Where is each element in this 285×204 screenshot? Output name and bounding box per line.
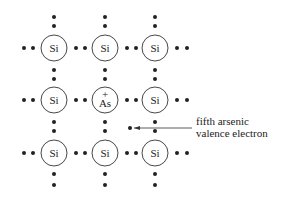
svg-text:Si: Si — [150, 42, 159, 54]
electron-dot — [103, 183, 107, 187]
electron-dot — [31, 98, 35, 102]
electron-dot — [134, 151, 138, 155]
atom-as: As+ — [92, 87, 118, 113]
electron-dot — [74, 151, 78, 155]
electron-dot — [52, 77, 56, 81]
svg-text:Si: Si — [49, 42, 58, 54]
atom-si: Si — [41, 140, 67, 166]
electron-dot — [153, 120, 157, 124]
svg-text:Si: Si — [49, 94, 58, 106]
svg-text:Si: Si — [150, 94, 159, 106]
electron-dot — [185, 151, 189, 155]
atom-si: Si — [142, 87, 168, 113]
electron-dot — [175, 98, 179, 102]
electron-dot — [153, 15, 157, 19]
electron-dot — [74, 98, 78, 102]
svg-text:Si: Si — [100, 147, 109, 159]
fifth-electron-annotation: fifth arsenic valence electron — [128, 115, 268, 139]
electron-dot — [103, 120, 107, 124]
electron-dot — [125, 151, 129, 155]
electron-dot — [52, 24, 56, 28]
silicon-lattice-diagram: SiSiSiSiAs+SiSiSiSi fifth arsenic valenc… — [0, 0, 285, 204]
electron-dot — [52, 15, 56, 19]
svg-text:Si: Si — [150, 147, 159, 159]
electron-dot — [52, 68, 56, 72]
electron-dot — [31, 46, 35, 50]
electron-dot — [153, 24, 157, 28]
electron-dot — [103, 68, 107, 72]
electron-dot — [103, 172, 107, 176]
electron-dot — [153, 77, 157, 81]
electron-dot — [153, 129, 157, 133]
fifth-electron-dot — [128, 126, 132, 130]
atom-si: Si — [41, 87, 67, 113]
electron-dot — [22, 151, 26, 155]
electron-dot — [74, 46, 78, 50]
electron-dot — [83, 46, 87, 50]
electron-dot — [153, 172, 157, 176]
electron-dot — [103, 129, 107, 133]
electron-dot — [185, 46, 189, 50]
atom-si: Si — [142, 140, 168, 166]
electron-dot — [125, 46, 129, 50]
electron-dot — [134, 46, 138, 50]
annotation-line-1: fifth arsenic — [196, 115, 249, 127]
electron-dot — [103, 24, 107, 28]
electron-dot — [185, 98, 189, 102]
electron-dot — [134, 98, 138, 102]
svg-text:Si: Si — [100, 42, 109, 54]
electron-dot — [83, 151, 87, 155]
electron-dot — [175, 151, 179, 155]
electron-dot — [22, 98, 26, 102]
arrow-head-icon — [134, 126, 140, 130]
electron-dot — [103, 77, 107, 81]
svg-text:Si: Si — [49, 147, 58, 159]
annotation-line-2: valence electron — [196, 127, 268, 139]
electron-dot — [52, 172, 56, 176]
electron-dot — [153, 68, 157, 72]
atoms: SiSiSiSiAs+SiSiSiSi — [41, 35, 168, 166]
electron-dot — [31, 151, 35, 155]
electron-dot — [52, 183, 56, 187]
atom-si: Si — [142, 35, 168, 61]
electron-dot — [175, 46, 179, 50]
atom-si: Si — [41, 35, 67, 61]
atom-si: Si — [92, 140, 118, 166]
atom-si: Si — [92, 35, 118, 61]
electron-dot — [125, 98, 129, 102]
electron-dot — [52, 120, 56, 124]
electron-dot — [22, 46, 26, 50]
electron-dot — [52, 129, 56, 133]
svg-text:+: + — [102, 88, 108, 100]
electron-dot — [83, 98, 87, 102]
electron-dot — [153, 183, 157, 187]
electron-dot — [103, 15, 107, 19]
